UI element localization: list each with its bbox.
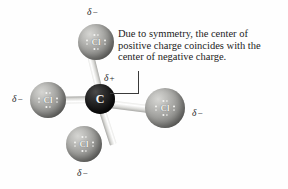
atom-cl-right: Cl (145, 88, 185, 128)
atom-carbon-center: C (85, 84, 115, 114)
lone-pair-bottom-icon (81, 150, 86, 152)
lewis-structure-cl-right: Cl (154, 99, 176, 117)
charge-label-cl-bottom: δ− (77, 169, 88, 179)
atom-cl-top: Cl (78, 24, 114, 60)
atom-symbol-carbon: C (96, 93, 105, 105)
charge-label-cl-right: δ− (192, 109, 203, 119)
lone-pair-right-icon (56, 97, 58, 102)
lone-pair-top-icon (45, 92, 50, 94)
lone-pair-left-icon (86, 39, 88, 44)
charge-sign-cl-bottom: − (81, 168, 87, 178)
callout-leader-vertical (138, 71, 139, 94)
atom-cl-bottom: Cl (66, 126, 102, 162)
lone-pair-right-icon (173, 105, 175, 110)
atom-symbol-cl-top: Cl (92, 38, 101, 47)
molecule-figure: Cl δ− Cl δ− (0, 0, 288, 189)
atom-symbol-cl-bottom: Cl (80, 140, 89, 149)
lone-pair-bottom-icon (93, 48, 98, 50)
charge-label-carbon: δ+ (104, 74, 115, 84)
lone-pair-left-icon (74, 141, 76, 146)
lewis-structure-cl-bottom: Cl (73, 135, 95, 153)
lone-pair-bottom-icon (162, 114, 167, 116)
lone-pair-top-icon (93, 34, 98, 36)
atom-cl-left: Cl (30, 82, 66, 118)
lone-pair-left-icon (38, 97, 40, 102)
lone-pair-right-icon (104, 39, 106, 44)
atom-symbol-cl-left: Cl (44, 96, 53, 105)
lewis-structure-cl-top: Cl (85, 33, 107, 51)
charge-label-cl-left: δ− (12, 95, 23, 105)
callout-text: Due to symmetry, the center of positive … (118, 28, 280, 63)
lewis-structure-cl-left: Cl (37, 91, 59, 109)
charge-sign-cl-top: − (91, 7, 97, 17)
charge-sign-carbon: + (108, 73, 114, 83)
lone-pair-right-icon (92, 141, 94, 146)
charge-sign-cl-left: − (16, 94, 22, 104)
charge-sign-cl-right: − (196, 108, 202, 118)
lone-pair-top-icon (81, 136, 86, 138)
lone-pair-bottom-icon (45, 106, 50, 108)
atom-symbol-cl-right: Cl (161, 104, 170, 113)
lone-pair-left-icon (155, 105, 157, 110)
charge-label-cl-top: δ− (87, 8, 98, 18)
lone-pair-top-icon (162, 100, 167, 102)
callout-leader-horizontal (110, 93, 139, 94)
